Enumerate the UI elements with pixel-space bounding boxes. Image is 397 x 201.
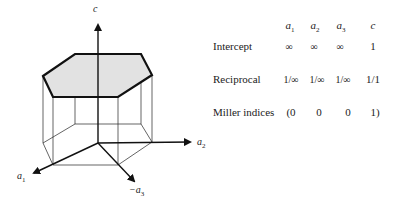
hexagonal-prism-diagram xyxy=(0,0,215,201)
intercept-a3: ∞ xyxy=(336,41,343,52)
miller-c: 1) xyxy=(370,106,379,118)
reciprocal-c: 1/1 xyxy=(366,73,380,85)
reciprocal-a1: 1/∞ xyxy=(284,74,299,85)
column-header-a1: a1 xyxy=(286,19,295,34)
axis-label-neg-a3: −a3 xyxy=(129,184,144,198)
row-label-intercept: Intercept xyxy=(213,40,252,52)
column-header-a2: a2 xyxy=(311,19,320,34)
a3-axis xyxy=(98,143,134,181)
a2-axis xyxy=(98,142,190,143)
axis-label-c: c xyxy=(93,3,97,14)
miller-a1: (0 xyxy=(286,106,295,118)
axis-label-a2: a2 xyxy=(197,136,206,150)
reciprocal-a2: 1/∞ xyxy=(310,74,325,85)
row-label-miller-indices: Miller indices xyxy=(213,106,274,118)
column-header-a3: a3 xyxy=(337,19,346,34)
intercept-a2: ∞ xyxy=(310,41,317,52)
axis-label-a1: a1 xyxy=(17,170,26,184)
miller-a3: 0 xyxy=(345,106,351,118)
column-header-c: c xyxy=(371,19,376,31)
miller-a2: 0 xyxy=(316,106,322,118)
a1-axis xyxy=(34,143,98,173)
reciprocal-a3: 1/∞ xyxy=(336,74,351,85)
intercept-c: 1 xyxy=(370,40,376,52)
axes xyxy=(34,25,190,181)
intercept-a1: ∞ xyxy=(285,41,292,52)
row-label-reciprocal: Reciprocal xyxy=(213,73,261,85)
